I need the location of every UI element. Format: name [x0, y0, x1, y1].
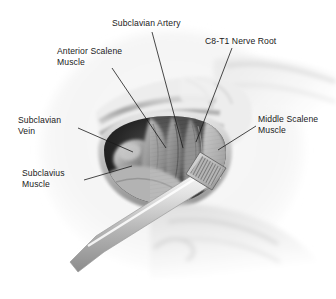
label-c8-t1-nerve-root: C8-T1 Nerve Root [205, 36, 276, 47]
label-subclavian-vein: Subclavian Vein [18, 115, 61, 136]
label-subclavius-muscle: Subclavius Muscle [22, 168, 65, 189]
anatomy-artwork [0, 0, 336, 299]
medical-illustration-figure: Subclavian Artery C8-T1 Nerve Root Anter… [0, 0, 336, 299]
label-middle-scalene-muscle: Middle Scalene Muscle [258, 114, 318, 135]
label-subclavian-artery: Subclavian Artery [112, 18, 181, 29]
label-anterior-scalene-muscle: Anterior Scalene Muscle [57, 46, 122, 67]
